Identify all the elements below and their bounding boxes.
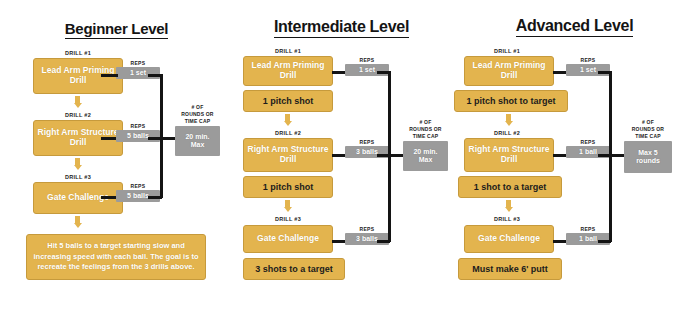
flow-arrow-b2: [73, 158, 82, 170]
drill-caption-a2: DRILL #2: [460, 130, 554, 136]
drill-box-i2: Right Arm Structure Drill: [243, 138, 333, 172]
reps-label-i1: REPS: [345, 58, 389, 63]
drill-caption-i3: DRILL #3: [243, 216, 333, 222]
reps-label-b1: REPS: [116, 61, 160, 66]
drill-box-i3: Gate Challenge: [243, 225, 333, 253]
cap-group-beginner: # OF ROUNDS OR TIME CAP 20 min. Max: [175, 104, 220, 156]
reps-group-b3: REPS 5 balls: [116, 184, 160, 202]
connector-i1-left: [332, 71, 345, 74]
connector-a1-left: [553, 71, 566, 74]
connector-i2-left: [332, 154, 345, 157]
connector-a3-left: [553, 240, 566, 243]
reps-value-a1: 1 set: [566, 64, 610, 76]
reps-label-i3: REPS: [345, 227, 389, 232]
reps-value-b2: 5 balls: [116, 130, 160, 142]
followup-box-a2: 1 shot to a target: [458, 176, 562, 198]
flow-arrow-i1: [283, 114, 292, 126]
column-intermediate: Intermediate Level DRILL #1 Lead Arm Pri…: [233, 0, 450, 311]
followup-box-i2: 1 pitch shot: [243, 176, 333, 198]
reps-label-a3: REPS: [566, 227, 610, 232]
cap-group-advanced: # OF ROUNDS OR TIME CAP Max 5 rounds: [624, 119, 672, 173]
cap-label-advanced: # OF ROUNDS OR TIME CAP: [624, 119, 672, 139]
drill-caption-i1: DRILL #1: [243, 48, 333, 54]
connector-b2-left: [101, 137, 116, 140]
connector-b3-left: [101, 196, 116, 199]
cap-label-intermediate: # OF ROUNDS OR TIME CAP: [403, 119, 448, 139]
followup-box-a1: 1 pitch shot to target: [454, 90, 568, 112]
reps-label-i2: REPS: [345, 140, 389, 145]
column-title-advanced-text: Advanced Level: [516, 17, 634, 37]
cap-value-beginner: 20 min. Max: [175, 126, 220, 156]
drill-caption-i2: DRILL #2: [243, 130, 333, 136]
reps-value-b1: 1 set: [116, 67, 160, 79]
column-title-advanced: Advanced Level: [450, 17, 699, 37]
reps-label-a2: REPS: [566, 140, 610, 145]
connector-a2-left: [553, 154, 566, 157]
cap-label-beginner: # OF ROUNDS OR TIME CAP: [175, 104, 220, 124]
bracket-to-cap-beginner: [160, 137, 176, 140]
drill-box-i1: Lead Arm Priming Drill: [243, 56, 333, 86]
flow-arrow-a2: [504, 200, 513, 212]
bracket-to-cap-intermediate: [388, 154, 404, 157]
column-title-beginner: Beginner Level: [0, 20, 233, 39]
cap-value-advanced: Max 5 rounds: [624, 141, 672, 173]
reps-label-a1: REPS: [566, 58, 610, 63]
drill-caption-a3: DRILL #3: [460, 216, 554, 222]
flow-arrow-b1: [73, 96, 82, 108]
reps-label-b2: REPS: [116, 124, 160, 129]
drill-box-a2: Right Arm Structure Drill: [464, 138, 554, 172]
bracket-to-cap-advanced: [609, 154, 625, 157]
reps-label-b3: REPS: [116, 184, 160, 189]
cap-value-intermediate: 20 min. Max: [403, 141, 448, 171]
followup-box-a3: Must make 6' putt: [458, 258, 562, 280]
flow-arrow-i2: [283, 200, 292, 212]
drill-box-a1: Lead Arm Priming Drill: [464, 56, 554, 86]
drill-caption-b3: DRILL #3: [36, 174, 120, 180]
reps-value-i1: 1 set: [345, 64, 389, 76]
flow-arrow-b3: [73, 216, 82, 228]
column-title-beginner-text: Beginner Level: [65, 20, 168, 39]
drill-plan-diagram: Beginner Level DRILL #1 Lead Arm Priming…: [0, 0, 699, 311]
column-advanced: Advanced Level DRILL #1 Lead Arm Priming…: [450, 0, 699, 311]
column-title-intermediate: Intermediate Level: [233, 18, 450, 38]
column-beginner: Beginner Level DRILL #1 Lead Arm Priming…: [0, 0, 233, 311]
bracket-vertical-advanced: [609, 71, 612, 242]
column-title-intermediate-text: Intermediate Level: [274, 18, 409, 38]
drill-caption-b2: DRILL #2: [36, 112, 120, 118]
flow-arrow-a1: [504, 114, 513, 126]
drill-caption-a1: DRILL #1: [460, 48, 554, 54]
followup-box-i1: 1 pitch shot: [243, 90, 333, 112]
bracket-vertical-beginner: [160, 74, 163, 198]
cap-group-intermediate: # OF ROUNDS OR TIME CAP 20 min. Max: [403, 119, 448, 171]
reps-value-i3: 3 balls: [345, 233, 389, 245]
followup-box-i3: 3 shots to a target: [243, 258, 345, 280]
summary-box-beginner: Hit 5 balls to a target starting slow an…: [26, 234, 206, 280]
connector-b1-left: [101, 74, 118, 77]
connector-i3-left: [332, 240, 345, 243]
drill-box-a3: Gate Challenge: [464, 225, 554, 253]
reps-value-a3: 1 ball: [566, 233, 610, 245]
drill-caption-b1: DRILL #1: [36, 50, 120, 56]
bracket-vertical-intermediate: [388, 71, 391, 242]
